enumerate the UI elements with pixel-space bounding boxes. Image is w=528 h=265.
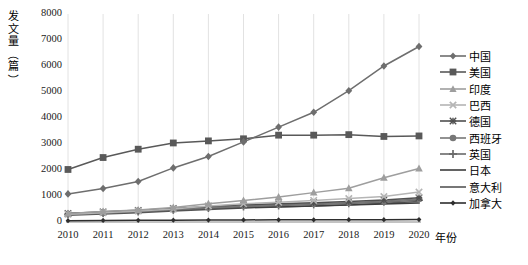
data-point-marker <box>345 131 352 138</box>
legend-item[interactable]: 意大利 <box>440 178 528 194</box>
legend-marker-icon <box>440 65 466 79</box>
data-point-marker <box>66 218 71 223</box>
legend-item-label: 印度 <box>469 81 491 97</box>
legend-item-label: 英国 <box>469 146 491 162</box>
legend-item-label: 中国 <box>469 48 491 64</box>
data-point-marker <box>382 217 387 222</box>
data-point-marker <box>275 132 282 139</box>
data-point-marker <box>100 154 107 161</box>
chart-legend: 中国美国印度巴西德国西班牙英国日本意大利加拿大 <box>440 48 528 211</box>
data-point-marker <box>416 195 422 201</box>
legend-item[interactable]: 印度 <box>440 81 528 97</box>
legend-item-label: 加拿大 <box>469 195 502 211</box>
data-point-marker <box>205 153 212 161</box>
data-point-marker <box>381 133 388 140</box>
data-point-marker <box>416 133 423 140</box>
legend-marker-icon <box>440 131 466 145</box>
data-point-marker <box>345 87 352 95</box>
legend-item-label: 德国 <box>469 113 491 129</box>
data-point-marker <box>205 137 212 144</box>
legend-item[interactable]: 中国 <box>440 48 528 64</box>
data-point-marker <box>100 185 107 193</box>
legend-item[interactable]: 英国 <box>440 146 528 162</box>
legend-marker-icon <box>440 180 466 194</box>
data-point-marker <box>135 146 142 153</box>
legend-item[interactable]: 美国 <box>440 64 528 80</box>
data-point-marker <box>65 166 72 173</box>
data-point-marker <box>170 164 177 172</box>
legend-marker-icon <box>440 49 466 63</box>
legend-item-label: 意大利 <box>469 179 502 195</box>
line-chart: 发文量（篇） 010002000300040005000600070008000… <box>0 0 528 265</box>
legend-item[interactable]: 加拿大 <box>440 195 528 211</box>
data-point-marker <box>170 140 177 147</box>
legend-item[interactable]: 德国 <box>440 113 528 129</box>
data-point-marker <box>65 190 72 198</box>
data-point-marker <box>415 164 423 171</box>
legend-marker-icon <box>440 163 466 177</box>
legend-item[interactable]: 西班牙 <box>440 129 528 145</box>
legend-item-label: 美国 <box>469 64 491 80</box>
data-point-marker <box>310 108 317 116</box>
gridlines <box>68 14 419 222</box>
legend-item-label: 西班牙 <box>469 130 502 146</box>
data-point-marker <box>417 217 422 222</box>
legend-item[interactable]: 日本 <box>440 162 528 178</box>
legend-item-label: 日本 <box>469 162 491 178</box>
legend-marker-icon <box>440 147 466 161</box>
legend-marker-icon <box>440 114 466 128</box>
data-point-marker <box>310 132 317 139</box>
legend-item-label: 巴西 <box>469 97 491 113</box>
legend-item[interactable]: 巴西 <box>440 97 528 113</box>
data-point-marker <box>381 62 388 70</box>
legend-marker-icon <box>440 196 466 210</box>
data-point-marker <box>416 43 423 51</box>
data-point-marker <box>135 178 142 186</box>
data-point-marker <box>275 123 282 131</box>
legend-marker-icon <box>440 82 466 96</box>
legend-marker-icon <box>440 98 466 112</box>
data-point-marker <box>346 217 351 222</box>
